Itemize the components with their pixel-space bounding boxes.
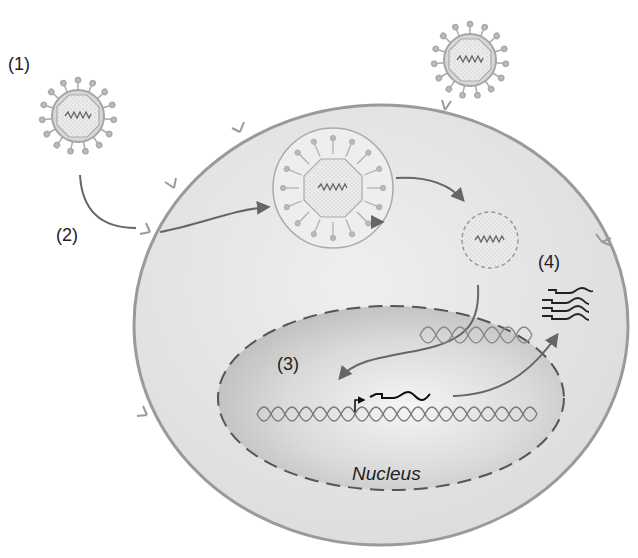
virus-particle-attached	[431, 21, 508, 98]
step-label-3: (3)	[277, 355, 299, 373]
step-label-1: (1)	[8, 55, 30, 73]
arrow-attach	[80, 175, 136, 228]
virus-particle-free	[39, 77, 116, 154]
nucleus-label: Nucleus	[352, 464, 421, 483]
diagram-canvas	[0, 0, 638, 558]
viral-lifecycle-diagram: (1) (2) (3) (4) Nucleus	[0, 0, 638, 558]
step-label-2: (2)	[56, 226, 78, 244]
endosome	[273, 128, 393, 248]
uncoated-capsid	[462, 212, 518, 268]
step-label-4: (4)	[538, 253, 560, 271]
